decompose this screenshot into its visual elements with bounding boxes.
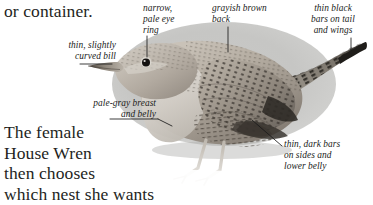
annotation-label-back: grayish brown back [212, 3, 302, 25]
annotation-label-bill: thin, slightly curved bill [16, 40, 116, 62]
annotation-label-eye-ring: narrow, pale eye ring [143, 3, 203, 35]
annotation-label-side-bars: thin, dark bars on sides and lower belly [284, 139, 372, 171]
bird-bill [88, 62, 123, 72]
body-text-top: or container. [4, 1, 93, 22]
body-text-bottom: The female House Wren then chooses which… [4, 122, 154, 204]
annotation-label-breast-belly: pale-gray breast and belly [52, 98, 156, 120]
bird-eye [142, 58, 150, 66]
field-guide-page: or container. The female House Wren then… [0, 0, 373, 205]
annotation-label-tail-wing-bars: thin black bars on tail and wings [296, 3, 370, 35]
